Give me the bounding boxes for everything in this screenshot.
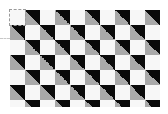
diagonal-tile [40,25,55,40]
plain-tile [40,70,55,85]
diagonal-tile [40,85,55,100]
plain-tile [55,55,70,70]
diagonal-tile [55,40,70,55]
plain-tile [145,25,160,40]
diagonal-tile [115,10,130,25]
plain-tile [100,100,115,107]
diagonal-tile [85,10,100,25]
plain-tile [130,70,145,85]
diagonal-tile [25,70,40,85]
diagonal-tile [100,85,115,100]
diagonal-tile [55,70,70,85]
plain-tile [115,25,130,40]
plain-tile [10,40,25,55]
diagonal-tile [40,55,55,70]
pattern-grid [10,10,160,107]
plain-tile [70,70,85,85]
plain-tile [70,100,85,107]
diagonal-tile [25,100,40,107]
diagonal-tile [115,70,130,85]
diagonal-tile [70,25,85,40]
plain-tile [25,55,40,70]
diagonal-tile [25,10,40,25]
diagonal-tile [85,100,100,107]
plain-tile [100,10,115,25]
diagonal-tile [55,10,70,25]
plain-tile [55,25,70,40]
plain-tile [25,85,40,100]
diagonal-tile [85,40,100,55]
plain-tile [40,40,55,55]
plain-tile [70,10,85,25]
diagonal-tile [70,55,85,70]
diagonal-tile [55,100,70,107]
diagonal-tile [130,55,145,70]
plain-tile [115,55,130,70]
guide-line [0,38,10,39]
selection-marquee[interactable] [9,9,26,26]
plain-tile [85,25,100,40]
plain-tile [10,70,25,85]
plain-tile [70,40,85,55]
plain-tile [55,85,70,100]
diagonal-tile [70,85,85,100]
diagonal-tile [25,40,40,55]
plain-tile [85,55,100,70]
diagonal-tile [145,70,160,85]
diagonal-tile [130,85,145,100]
diagonal-tile [145,40,160,55]
diagonal-tile [85,70,100,85]
plain-tile [100,40,115,55]
plain-tile [130,10,145,25]
plain-tile [85,85,100,100]
diagonal-tile [10,55,25,70]
plain-tile [145,55,160,70]
diagonal-tile [115,40,130,55]
diagonal-tile [145,10,160,25]
diagonal-tile [10,85,25,100]
plain-tile [100,70,115,85]
diagonal-tile [130,25,145,40]
diagonal-tile [115,100,130,107]
plain-tile [145,85,160,100]
plain-tile [40,10,55,25]
plain-tile [115,85,130,100]
plain-tile [130,40,145,55]
diagonal-tile [100,25,115,40]
plain-tile [40,100,55,107]
diagonal-tile [145,100,160,107]
plain-tile [25,25,40,40]
diagonal-tile [10,25,25,40]
plain-tile [10,100,25,107]
diagonal-tile [100,55,115,70]
plain-tile [130,100,145,107]
